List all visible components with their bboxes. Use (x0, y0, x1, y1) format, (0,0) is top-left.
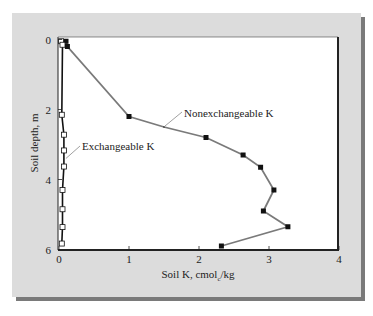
x-axis-title: Soil K, cmolc/kg (161, 268, 235, 283)
filled-square-marker (261, 209, 266, 214)
open-square-marker (60, 207, 65, 212)
filled-square-marker (258, 165, 263, 170)
x-tick-label: 1 (126, 253, 132, 265)
y-tick-label: 6 (46, 244, 52, 256)
filled-square-marker (65, 44, 70, 49)
open-square-marker (61, 164, 66, 169)
y-tick-label: 4 (46, 174, 52, 186)
open-square-marker (59, 241, 64, 246)
x-tick-label: 0 (56, 253, 62, 265)
filled-square-marker (219, 244, 224, 249)
filled-square-marker (241, 153, 246, 158)
exchangeable-k-label: Exchangeable K (82, 140, 154, 152)
y-axis-title: Soil depth, m (28, 113, 40, 172)
x-tick-label: 3 (266, 253, 272, 265)
chart-svg: 012340246 Nonexchangeable KExchangeable … (0, 0, 373, 316)
y-tick-label: 2 (46, 104, 52, 116)
nonexchangeable-k-label: Nonexchangeable K (184, 107, 274, 119)
open-square-marker (61, 148, 66, 153)
filled-square-marker (285, 224, 290, 229)
filled-square-marker (204, 135, 209, 140)
filled-square-marker (127, 114, 132, 119)
x-tick-label: 2 (196, 253, 202, 265)
open-square-marker (60, 225, 65, 230)
y-tick-label: 0 (46, 34, 52, 46)
open-square-marker (60, 42, 65, 47)
open-square-marker (61, 132, 66, 137)
x-tick-label: 4 (336, 253, 342, 265)
filled-square-marker (271, 188, 276, 193)
data-point (163, 126, 165, 128)
open-square-marker (59, 112, 64, 117)
open-square-marker (60, 188, 65, 193)
